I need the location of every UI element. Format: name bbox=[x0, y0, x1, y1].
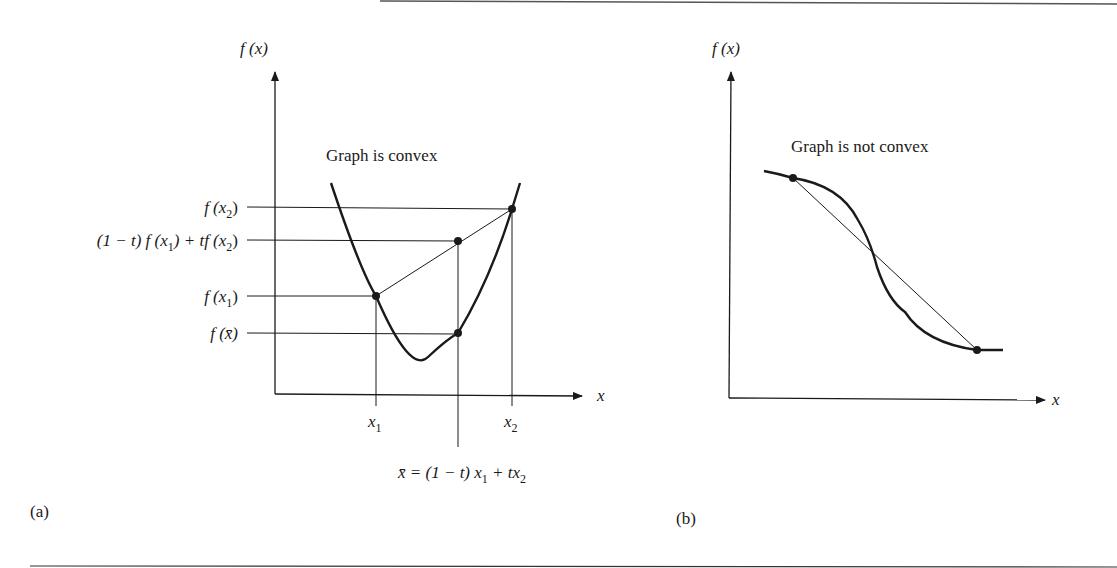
panel-label-a: (a) bbox=[30, 502, 49, 521]
chord bbox=[376, 209, 512, 296]
x-axis bbox=[729, 398, 1045, 400]
x-axis bbox=[275, 394, 582, 396]
x-axis-label: x bbox=[596, 386, 605, 405]
xbar-formula: x̄ = (1 − t) x1 + tx2 bbox=[397, 463, 526, 486]
bottom-rule bbox=[30, 566, 1117, 567]
chart-title: Graph is not convex bbox=[791, 137, 929, 156]
panel-a: f (x) x Graph is convex f (x2) (1 − t) f… bbox=[30, 39, 605, 521]
point-chord-xbar bbox=[454, 237, 462, 245]
point-x2 bbox=[508, 205, 516, 213]
x-axis-label: x bbox=[1051, 390, 1060, 409]
chord bbox=[793, 178, 977, 350]
y-axis-label: f (x) bbox=[240, 39, 268, 58]
tick-label-x2: x2 bbox=[503, 412, 518, 435]
guide-fxbar bbox=[247, 333, 458, 334]
y-axis bbox=[729, 72, 731, 398]
panel-label-b: (b) bbox=[676, 509, 696, 528]
nonconvex-curve bbox=[764, 171, 1003, 350]
tick-label-fx2: f (x2) bbox=[204, 198, 238, 221]
point-curve-xbar bbox=[454, 329, 462, 337]
tick-label-fx1: f (x1) bbox=[204, 287, 238, 310]
guide-fx2 bbox=[247, 207, 512, 209]
chart-title: Graph is convex bbox=[326, 146, 438, 165]
tick-label-x1: x1 bbox=[367, 412, 382, 435]
point-left bbox=[789, 174, 797, 182]
point-x1 bbox=[372, 292, 380, 300]
top-rule bbox=[380, 1, 1117, 4]
figure-canvas: f (x) x Graph is convex f (x2) (1 − t) f… bbox=[0, 0, 1117, 568]
y-axis-label: f (x) bbox=[712, 39, 740, 58]
point-right bbox=[973, 346, 981, 354]
tick-label-combo: (1 − t) f (x1) + tf (x2) bbox=[97, 231, 238, 254]
panel-b: f (x) x Graph is not convex (b) bbox=[676, 39, 1060, 528]
tick-label-fxbar: f (x̄) bbox=[210, 324, 238, 343]
